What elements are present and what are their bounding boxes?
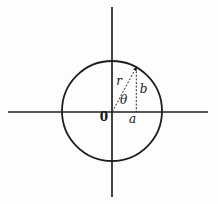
unit-circle-diagram: r b θ 0 a	[0, 0, 218, 204]
vertical-leg-label: b	[140, 82, 148, 96]
figure-canvas: r b θ 0 a	[0, 0, 218, 204]
radius-label: r	[116, 74, 123, 88]
origin-label: 0	[100, 110, 108, 124]
horizontal-leg-label: a	[129, 112, 136, 126]
angle-label: θ	[120, 93, 128, 107]
